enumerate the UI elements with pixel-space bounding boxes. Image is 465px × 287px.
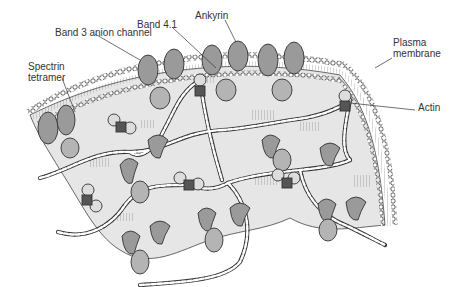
- label-membrane: membrane: [393, 48, 441, 59]
- label-plasma: Plasma: [393, 37, 426, 48]
- label-actin: Actin: [418, 102, 440, 113]
- label-spectrin: Spectrin: [28, 61, 65, 72]
- label-band-4-1: Band 4.1: [137, 19, 177, 30]
- label-tetramer: tetramer: [28, 72, 65, 83]
- label-ankyrin: Ankyrin: [195, 10, 228, 21]
- junction-complex: [339, 90, 351, 111]
